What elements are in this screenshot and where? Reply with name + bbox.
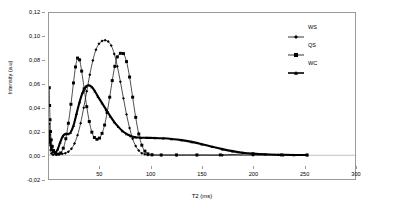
data-point bbox=[93, 136, 96, 139]
data-point bbox=[143, 150, 146, 153]
y-tick-mark bbox=[42, 84, 45, 85]
legend-entry-ws[interactable]: WS bbox=[288, 22, 348, 40]
data-point bbox=[59, 151, 62, 154]
data-point bbox=[137, 132, 140, 135]
chart-legend: WSQSWC bbox=[288, 22, 348, 76]
y-tick-label: 0,04 bbox=[29, 105, 40, 111]
series-line-ws bbox=[49, 40, 307, 155]
data-point bbox=[219, 153, 222, 156]
data-point bbox=[151, 153, 154, 156]
chart-container: -0,020,000,020,040,060,080,100,12 Intens… bbox=[0, 0, 393, 213]
data-point bbox=[116, 65, 119, 68]
y-tick-mark bbox=[42, 60, 45, 61]
data-point bbox=[62, 147, 65, 150]
y-tick-label: 0,10 bbox=[29, 33, 40, 39]
data-point bbox=[104, 39, 107, 42]
data-point bbox=[91, 59, 94, 62]
data-point bbox=[49, 104, 51, 107]
data-point bbox=[69, 103, 72, 106]
data-point bbox=[160, 153, 163, 156]
legend-marker-diamond-icon bbox=[288, 26, 304, 32]
data-point bbox=[79, 122, 82, 125]
x-tick-mark bbox=[202, 166, 203, 169]
y-tick-mark bbox=[42, 108, 45, 109]
data-point bbox=[119, 80, 122, 83]
data-point bbox=[49, 118, 52, 121]
legend-label: WS bbox=[308, 23, 317, 31]
x-tick-mark bbox=[305, 166, 306, 169]
x-tick-label: 150 bbox=[197, 171, 206, 178]
data-point bbox=[146, 152, 149, 155]
data-point bbox=[134, 116, 137, 119]
y-tick-mark bbox=[42, 180, 45, 181]
data-point bbox=[195, 153, 198, 156]
legend-marker-triangle-icon bbox=[288, 62, 304, 68]
y-tick-label: 0,12 bbox=[29, 9, 40, 15]
data-point bbox=[49, 86, 51, 89]
data-point bbox=[119, 52, 122, 55]
x-axis-title: T2 (ms) bbox=[48, 192, 356, 200]
legend-marker-square-icon bbox=[288, 44, 304, 50]
data-point bbox=[49, 130, 52, 133]
data-point bbox=[101, 132, 104, 135]
x-tick-label: 50 bbox=[96, 171, 102, 178]
data-point bbox=[98, 137, 101, 140]
data-point bbox=[116, 55, 119, 58]
x-tick-label: 100 bbox=[146, 171, 155, 178]
y-tick-mark bbox=[42, 12, 45, 13]
data-point bbox=[134, 145, 137, 148]
data-point bbox=[82, 106, 85, 109]
data-point bbox=[78, 58, 81, 61]
data-point bbox=[103, 124, 106, 127]
data-point bbox=[111, 79, 114, 82]
legend-label: WC bbox=[308, 59, 317, 67]
y-tick-label: 0,08 bbox=[29, 57, 40, 63]
x-tick-mark bbox=[99, 166, 100, 169]
data-point bbox=[128, 127, 131, 130]
x-tick-mark bbox=[151, 166, 152, 169]
y-tick-mark bbox=[42, 132, 45, 133]
data-point bbox=[72, 81, 75, 84]
y-tick-label: 0,06 bbox=[29, 81, 40, 87]
legend-entry-qs[interactable]: QS bbox=[288, 40, 348, 58]
x-tick-mark bbox=[356, 166, 357, 169]
legend-label: QS bbox=[308, 41, 316, 49]
legend-entry-wc[interactable]: WC bbox=[288, 58, 348, 76]
data-point bbox=[122, 97, 125, 100]
x-tick-mark-origin bbox=[48, 166, 49, 169]
data-point bbox=[108, 96, 111, 99]
x-tick-mark bbox=[253, 166, 254, 169]
data-point bbox=[110, 44, 113, 47]
x-tick-label: 200 bbox=[249, 171, 258, 178]
y-tick-mark bbox=[42, 36, 45, 37]
data-point bbox=[140, 144, 143, 147]
data-point bbox=[64, 137, 67, 140]
data-point bbox=[122, 52, 125, 55]
data-point bbox=[64, 152, 67, 155]
y-tick-label: 0,02 bbox=[29, 129, 40, 135]
data-point bbox=[95, 138, 98, 141]
data-point bbox=[175, 153, 178, 156]
data-point bbox=[73, 142, 76, 145]
data-point bbox=[90, 131, 93, 134]
data-point bbox=[131, 96, 134, 99]
x-axis: 50100150200250300 bbox=[48, 166, 356, 180]
data-point bbox=[128, 76, 131, 79]
data-point bbox=[80, 70, 83, 73]
data-point bbox=[88, 73, 91, 76]
y-axis-title: Intensity (a.u) bbox=[7, 40, 14, 116]
data-point bbox=[76, 134, 79, 137]
x-tick-label: 250 bbox=[300, 171, 309, 178]
data-point bbox=[113, 52, 116, 55]
data-point bbox=[125, 113, 128, 116]
y-tick-mark bbox=[42, 156, 45, 157]
data-point bbox=[74, 65, 77, 68]
data-point bbox=[113, 65, 116, 68]
data-point bbox=[88, 120, 91, 123]
data-point bbox=[57, 153, 60, 156]
data-point bbox=[67, 122, 70, 125]
data-point bbox=[85, 90, 88, 93]
data-point bbox=[94, 48, 97, 51]
y-tick-label: -0,02 bbox=[27, 177, 40, 183]
data-point bbox=[125, 60, 128, 63]
